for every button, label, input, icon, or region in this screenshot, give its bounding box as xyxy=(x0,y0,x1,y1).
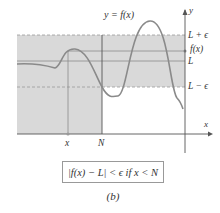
x-tick-label: x xyxy=(64,138,70,148)
lower-bound-label: L − ϵ xyxy=(187,81,209,91)
upper-bound-label: L + ϵ xyxy=(187,30,209,40)
fx-label: f(x) xyxy=(190,44,203,55)
x-less-than-n-region xyxy=(17,87,102,134)
curve-label: y = f(x) xyxy=(103,9,135,21)
y-axis-arrow-icon xyxy=(183,9,188,15)
limit-label: L xyxy=(187,56,193,66)
n-tick-label: N xyxy=(97,138,105,148)
panel-label: (b) xyxy=(0,190,220,202)
x-axis-label: x xyxy=(203,119,208,129)
y-axis-label: y xyxy=(188,5,193,15)
x-point xyxy=(66,132,69,135)
x-axis-arrow-icon xyxy=(208,132,213,137)
condition-caption: |f(x) − L| < ϵ if x < N xyxy=(62,161,164,183)
